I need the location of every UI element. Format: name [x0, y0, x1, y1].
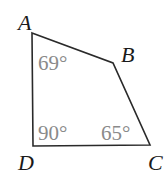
vertex-label-b: B — [121, 42, 134, 67]
vertex-label-a: A — [16, 10, 32, 35]
vertex-label-c: C — [148, 150, 163, 175]
vertex-label-d: D — [17, 150, 34, 175]
angle-label-d: 90° — [38, 121, 67, 145]
angle-label-c: 65° — [101, 121, 130, 145]
angle-label-a: 69° — [38, 51, 67, 75]
quadrilateral-diagram: A B C D 69° 90° 65° — [0, 0, 166, 179]
